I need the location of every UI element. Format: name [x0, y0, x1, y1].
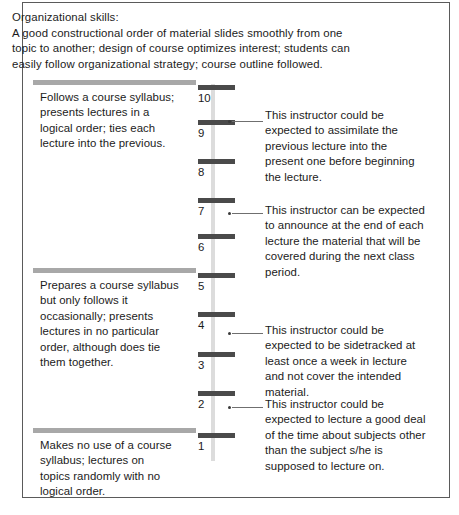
leader-dot-9	[228, 120, 231, 123]
scale-label-9: 9	[198, 127, 218, 139]
leader-line-2	[228, 404, 263, 411]
descriptor-box-2: This instructor could be expected to lec…	[265, 397, 451, 474]
scale-label-3: 3	[198, 359, 218, 371]
descriptor-text-7: This instructor can be expected to annou…	[265, 203, 451, 280]
anchor-box-low: Makes no use of a course syllabus; lectu…	[33, 428, 196, 500]
dimension-definition-line-1: A good constructional order of material …	[12, 26, 412, 42]
leader-dot-7	[228, 212, 231, 215]
scale-tick-1	[198, 433, 235, 438]
dimension-definition-line-2: topic to another; design of course optim…	[12, 41, 412, 57]
anchor-box-high: Follows a course syllabus; presents lect…	[33, 80, 196, 152]
descriptor-box-4: This instructor could be expected to be …	[265, 323, 451, 400]
leader-line-9	[228, 118, 263, 125]
scale-tick-10	[198, 85, 235, 90]
descriptor-box-9: This instructor could be expected to ass…	[265, 108, 451, 185]
scale-label-6: 6	[198, 241, 218, 253]
anchor-text-mid: Prepares a course syllabus but only foll…	[33, 278, 196, 370]
scale-tick-6	[198, 234, 235, 239]
scale-label-7: 7	[198, 205, 218, 217]
leader-line-4	[228, 330, 263, 337]
anchor-rule-mid	[33, 268, 196, 273]
dimension-definition-line-3: easily follow organizational strategy; c…	[12, 57, 412, 73]
scale-tick-7	[198, 198, 235, 203]
leader-rule-7	[232, 213, 263, 214]
anchor-text-high: Follows a course syllabus; presents lect…	[33, 90, 196, 152]
scale-label-8: 8	[198, 166, 218, 178]
descriptor-box-7: This instructor can be expected to annou…	[265, 203, 451, 280]
scale-label-10: 10	[198, 92, 218, 104]
descriptor-text-9: This instructor could be expected to ass…	[265, 108, 451, 185]
anchor-text-low: Makes no use of a course syllabus; lectu…	[33, 438, 196, 500]
scale-tick-2	[198, 391, 235, 396]
scale-tick-8	[198, 159, 235, 164]
leader-rule-9	[232, 121, 263, 122]
dimension-header: Organizational skills: A good constructi…	[12, 10, 412, 72]
scale-tick-3	[198, 352, 235, 357]
leader-rule-4	[232, 333, 263, 334]
descriptor-text-2: This instructor could be expected to lec…	[265, 397, 451, 474]
leader-dot-2	[228, 406, 231, 409]
anchor-rule-high	[33, 80, 196, 85]
scale-label-1: 1	[198, 440, 218, 452]
leader-rule-2	[232, 407, 263, 408]
scale-tick-4	[198, 312, 235, 317]
leader-line-7	[228, 210, 263, 217]
anchor-box-mid: Prepares a course syllabus but only foll…	[33, 268, 196, 370]
descriptor-text-4: This instructor could be expected to be …	[265, 323, 451, 400]
scale-label-2: 2	[198, 398, 218, 410]
anchor-rule-low	[33, 428, 196, 433]
leader-dot-4	[228, 332, 231, 335]
scale-label-5: 5	[198, 280, 218, 292]
dimension-title: Organizational skills:	[12, 10, 412, 26]
scale-label-4: 4	[198, 319, 218, 331]
scale-tick-5	[198, 273, 235, 278]
